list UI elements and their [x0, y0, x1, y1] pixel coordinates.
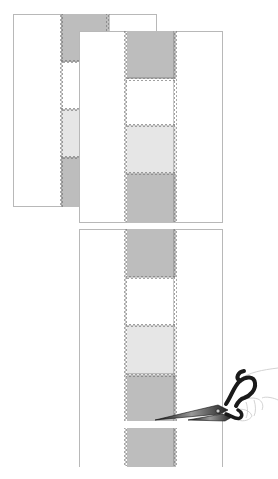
dark-block [127, 31, 176, 79]
cut-panel [79, 229, 223, 467]
dark-block [127, 428, 176, 467]
light-block [127, 326, 176, 375]
dark-block [127, 229, 176, 277]
light-block [127, 126, 176, 174]
pieced-strip [127, 31, 176, 223]
hand-icon [236, 368, 278, 421]
dark-block [127, 174, 176, 223]
dark-block [127, 375, 176, 421]
cut-gap [127, 421, 176, 428]
pieced-strip [127, 229, 176, 467]
white-block [127, 79, 176, 126]
white-block [127, 277, 176, 326]
front-panel [79, 31, 223, 223]
